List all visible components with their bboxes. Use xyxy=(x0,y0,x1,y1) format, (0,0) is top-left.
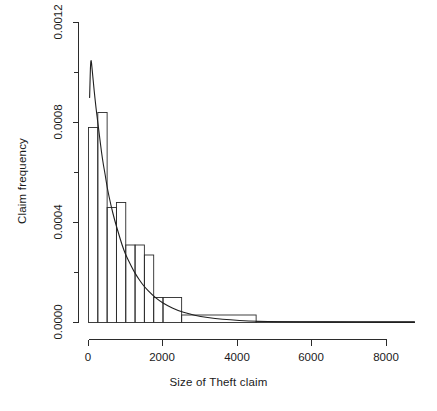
fitted-density-curve xyxy=(90,61,415,323)
x-tick-labels: 0 2000 4000 6000 8000 xyxy=(85,351,399,363)
histogram-bar xyxy=(107,208,116,323)
x-axis-ticks xyxy=(89,340,387,346)
y-axis-ticks xyxy=(73,23,79,323)
histogram-bar xyxy=(154,298,163,323)
x-tick-label-1: 2000 xyxy=(149,351,175,363)
histogram-bar xyxy=(89,128,98,323)
x-tick-label-0: 0 xyxy=(85,351,91,363)
chart-figure: 0.0000 0.0004 0.0008 0.0012 0 2000 4000 … xyxy=(0,0,437,411)
histogram-plot: 0.0000 0.0004 0.0008 0.0012 0 2000 4000 … xyxy=(0,0,437,411)
histogram-bar xyxy=(98,113,107,323)
x-axis-title: Size of Theft claim xyxy=(0,376,437,388)
x-tick-label-3: 6000 xyxy=(298,351,324,363)
y-tick-label-0: 0.0000 xyxy=(52,304,64,339)
y-axis-title: Claim frequency xyxy=(16,121,28,241)
y-tick-label-3: 0.0012 xyxy=(52,4,64,39)
y-tick-labels: 0.0000 0.0004 0.0008 0.0012 xyxy=(52,4,64,339)
histogram-bars xyxy=(89,113,415,323)
x-tick-label-4: 8000 xyxy=(373,351,399,363)
histogram-bar xyxy=(116,203,125,323)
histogram-bar xyxy=(135,245,144,323)
y-axis xyxy=(73,23,79,323)
histogram-bar xyxy=(163,298,182,323)
y-tick-label-1: 0.0004 xyxy=(52,204,64,240)
y-tick-label-2: 0.0008 xyxy=(52,104,64,139)
x-axis xyxy=(89,340,387,346)
x-tick-label-2: 4000 xyxy=(224,351,250,363)
